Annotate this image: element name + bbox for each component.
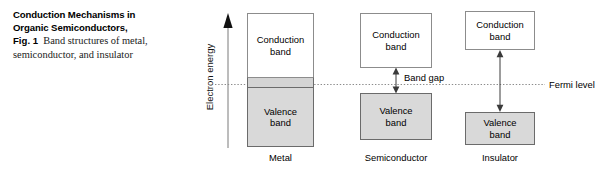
figure-root: Conduction Mechanisms in Organic Semicon… xyxy=(0,0,610,180)
band-gap-label: Band gap xyxy=(404,72,444,83)
semiconductor-conduction-band: Conduction band xyxy=(360,13,432,68)
metal-valence-band-label: Valence band xyxy=(262,106,299,129)
semiconductor-valence-band: Valence band xyxy=(360,93,432,140)
metal-column-caption: Metal xyxy=(247,152,314,163)
metal-valence-band: Valence band xyxy=(247,87,314,147)
semiconductor-valence-band-label: Valence band xyxy=(377,105,414,128)
axis-label-text: Electron energy xyxy=(204,35,215,119)
insulator-valence-band: Valence band xyxy=(465,112,535,145)
semiconductor-column-caption: Semiconductor xyxy=(350,152,442,163)
insulator-valence-band-label: Valence band xyxy=(481,117,518,140)
electron-energy-axis-arrow xyxy=(223,13,232,148)
band-gap-arrow-semiconductor xyxy=(393,68,400,94)
band-gap-arrow-insulator xyxy=(497,50,504,112)
semiconductor-conduction-band-label: Conduction band xyxy=(370,29,421,52)
insulator-column-caption: Insulator xyxy=(465,152,535,163)
insulator-conduction-band: Conduction band xyxy=(465,11,535,50)
insulator-conduction-band-label: Conduction band xyxy=(474,19,525,42)
metal-conduction-band: Conduction band xyxy=(247,13,314,78)
fermi-level-label: Fermi level xyxy=(549,79,595,90)
metal-conduction-band-label: Conduction band xyxy=(255,34,306,57)
